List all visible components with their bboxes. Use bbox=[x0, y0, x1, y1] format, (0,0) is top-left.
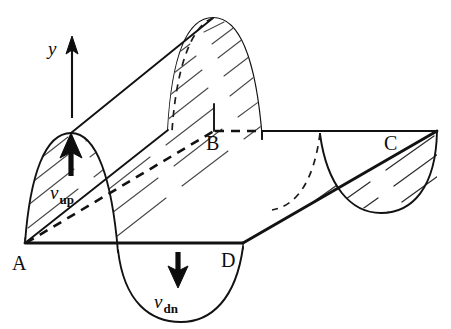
v-up-symbol: v bbox=[50, 182, 59, 203]
wave-surface-diagram: y vup vdn A B C D bbox=[0, 0, 451, 329]
v-dn-subscript: dn bbox=[163, 301, 178, 316]
point-label-B: B bbox=[206, 132, 219, 154]
v-dn-symbol: v bbox=[154, 291, 163, 312]
point-label-D: D bbox=[221, 249, 235, 271]
point-label-C: C bbox=[384, 132, 397, 154]
y-axis-label: y bbox=[46, 38, 57, 59]
point-label-A: A bbox=[12, 252, 27, 274]
v-up-subscript: up bbox=[59, 192, 73, 207]
figure-root: y vup vdn A B C D bbox=[0, 0, 451, 329]
